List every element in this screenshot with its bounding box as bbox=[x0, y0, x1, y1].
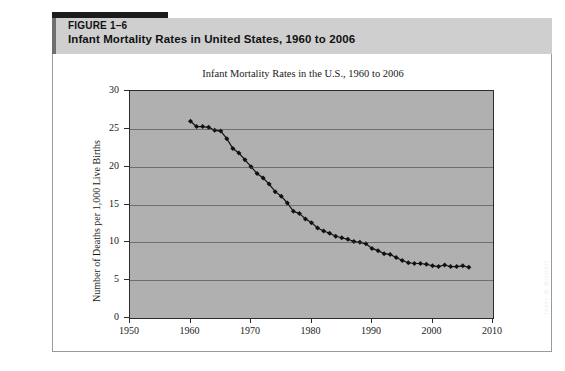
data-point-marker bbox=[424, 262, 429, 267]
data-point-marker bbox=[454, 264, 459, 269]
data-point-marker bbox=[466, 265, 471, 270]
data-point-marker bbox=[327, 231, 332, 236]
publisher-watermark: Jones & Bartlett bbox=[543, 260, 549, 315]
data-point-marker bbox=[321, 228, 326, 233]
figure-label: FIGURE 1–6 bbox=[68, 20, 127, 31]
data-point-marker bbox=[376, 248, 381, 253]
x-tick-label: 1960 bbox=[170, 325, 210, 336]
x-tick-label: 2000 bbox=[412, 325, 452, 336]
data-point-marker bbox=[442, 263, 447, 268]
data-point-marker bbox=[382, 251, 387, 256]
grid-line bbox=[130, 242, 493, 243]
x-tick-label: 1970 bbox=[230, 325, 270, 336]
data-point-marker bbox=[333, 234, 338, 239]
plot-area bbox=[129, 90, 494, 319]
data-point-marker bbox=[412, 261, 417, 266]
data-point-marker bbox=[460, 263, 465, 268]
grid-line bbox=[130, 167, 493, 168]
y-tick-label: 20 bbox=[89, 160, 119, 171]
data-point-marker bbox=[448, 264, 453, 269]
grid-line bbox=[130, 129, 493, 130]
data-point-marker bbox=[394, 255, 399, 260]
grid-line bbox=[130, 205, 493, 206]
x-tick-label: 1990 bbox=[351, 325, 391, 336]
chart-title: Infant Mortality Rates in the U.S., 1960… bbox=[53, 68, 553, 79]
data-point-marker bbox=[406, 260, 411, 265]
grid-line bbox=[130, 280, 493, 281]
y-tick-label: 30 bbox=[89, 84, 119, 95]
x-tick-label: 1950 bbox=[109, 325, 149, 336]
data-point-marker bbox=[388, 252, 393, 257]
x-tick-label: 1980 bbox=[291, 325, 331, 336]
y-tick-label: 5 bbox=[89, 273, 119, 284]
data-point-marker bbox=[430, 263, 435, 268]
data-point-marker bbox=[418, 261, 423, 266]
figure-header-bar: FIGURE 1–6 Infant Mortality Rates in Uni… bbox=[52, 18, 552, 54]
x-tick-label: 2010 bbox=[472, 325, 512, 336]
data-point-marker bbox=[400, 258, 405, 263]
y-tick-label: 10 bbox=[89, 235, 119, 246]
y-tick-label: 0 bbox=[89, 311, 119, 322]
data-point-marker bbox=[339, 235, 344, 240]
y-tick-label: 25 bbox=[89, 122, 119, 133]
figure-root: FIGURE 1–6 Infant Mortality Rates in Uni… bbox=[0, 0, 565, 371]
data-point-marker bbox=[436, 264, 441, 269]
figure-body: Infant Mortality Rates in the U.S., 1960… bbox=[52, 54, 552, 352]
figure-title: Infant Mortality Rates in United States,… bbox=[68, 33, 355, 45]
y-tick-label: 15 bbox=[89, 198, 119, 209]
data-point-marker bbox=[345, 237, 350, 242]
